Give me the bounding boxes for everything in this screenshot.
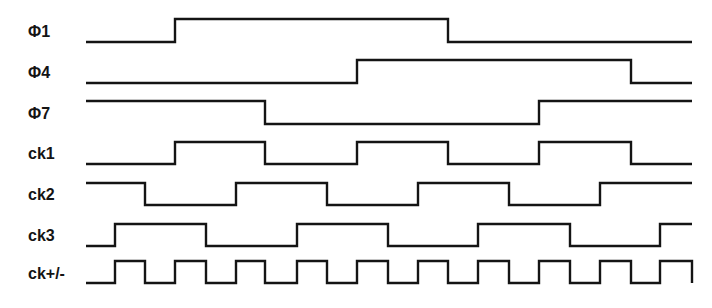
label-ck2: ck2 — [28, 187, 55, 203]
waveforms — [0, 0, 712, 308]
waveform-ck2 — [86, 183, 692, 205]
waveform-phi1 — [86, 19, 692, 42]
timing-diagram: Φ1 Φ4 Φ7 ck1 ck2 ck3 ck+/- — [0, 0, 712, 308]
label-phi4: Φ4 — [28, 65, 50, 81]
waveform-phi7 — [86, 101, 692, 124]
waveform-phi4 — [86, 60, 692, 83]
label-ck1: ck1 — [28, 146, 55, 162]
waveform-ck1 — [86, 142, 692, 164]
waveform-ck3 — [86, 224, 692, 246]
waveform-ckpm — [86, 261, 692, 283]
label-ck3: ck3 — [28, 228, 55, 244]
label-ckpm: ck+/- — [28, 266, 65, 282]
label-phi1: Φ1 — [28, 24, 50, 40]
label-phi7: Φ7 — [28, 106, 50, 122]
